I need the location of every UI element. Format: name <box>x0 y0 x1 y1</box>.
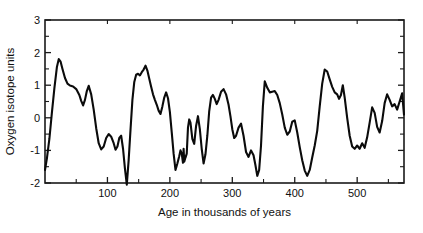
y-tick-label: 0 <box>34 112 40 124</box>
x-tick-label: 100 <box>98 187 116 199</box>
x-tick-label: 500 <box>348 187 366 199</box>
y-tick-label: 2 <box>34 47 40 59</box>
y-tick-label: -1 <box>30 144 40 156</box>
x-tick-label: 200 <box>161 187 179 199</box>
y-tick-label: 3 <box>34 14 40 26</box>
y-axis-label: Oxygen isotope units <box>4 48 16 156</box>
x-tick-label: 300 <box>223 187 241 199</box>
oxygen-isotope-line-chart: -2-10123 100200300400500 Age in thousand… <box>0 0 423 233</box>
y-tick-label: 1 <box>34 79 40 91</box>
plot-area-background <box>45 20 404 183</box>
x-axis-label: Age in thousands of years <box>158 206 291 218</box>
y-tick-label: -2 <box>30 177 40 189</box>
figure-container: -2-10123 100200300400500 Age in thousand… <box>0 0 423 233</box>
x-tick-label: 400 <box>286 187 304 199</box>
